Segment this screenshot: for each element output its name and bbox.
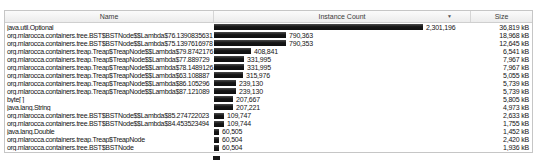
instance-count-value: 109,747 <box>227 112 251 119</box>
size-value: 5,805 kB <box>471 96 532 103</box>
size-value: 5,055 kB <box>471 72 532 79</box>
size-value: 7,967 kB <box>471 56 532 63</box>
clipped-row-bar-fragment <box>213 156 220 160</box>
size-value: 1,755 kB <box>471 120 532 127</box>
table-row[interactable]: org.mlarocca.containers.treap.Treap$Trea… <box>5 87 532 95</box>
size-value: 18,968 kB <box>471 32 532 39</box>
instance-count-value: 790,363 <box>289 32 313 39</box>
column-header-name[interactable]: Name <box>5 11 214 22</box>
instance-count-cell: 60,504 <box>214 136 471 143</box>
class-name: org.mlarocca.containers.tree.BST$BSTNode… <box>5 40 214 47</box>
instance-count-value: 207,221 <box>236 104 260 111</box>
size-value: 5,739 kB <box>471 80 532 87</box>
table-row[interactable]: org.mlarocca.containers.tree.BST$BSTNode… <box>5 31 532 39</box>
size-value: 2,420 kB <box>471 136 532 143</box>
table-row[interactable]: java.lang.Double 60,505 1,452 kB <box>5 128 532 136</box>
instance-count-bar <box>214 72 243 78</box>
class-name: org.mlarocca.containers.treap.Treap$Trea… <box>5 72 214 79</box>
instance-count-cell: 60,505 <box>214 128 471 135</box>
instance-count-value: 60,505 <box>222 128 242 135</box>
table-row[interactable]: org.mlarocca.containers.treap.Treap$Trea… <box>5 71 532 79</box>
instance-count-bar <box>214 24 423 30</box>
table-row[interactable]: java.util.Optional 2,301,196 36,819 kB <box>5 23 532 31</box>
class-name: org.mlarocca.containers.treap.Treap$Trea… <box>5 48 214 55</box>
instance-count-cell: 109,744 <box>214 120 471 127</box>
instance-count-value: 239,130 <box>239 80 263 87</box>
instance-count-bar <box>214 145 219 151</box>
instance-count-value: 331,995 <box>247 56 271 63</box>
column-header-instance-count-label: Instance Count <box>318 13 365 20</box>
size-value: 4,973 kB <box>471 104 532 111</box>
instance-count-value: 60,504 <box>222 144 242 151</box>
size-value: 12,645 kB <box>471 40 532 47</box>
table-row[interactable]: org.mlarocca.containers.treap.Treap$Trea… <box>5 63 532 71</box>
instance-count-bar <box>214 64 244 70</box>
instance-count-bar <box>214 32 286 38</box>
size-value: 2,633 kB <box>471 112 532 119</box>
instance-count-cell: 790,353 <box>214 40 471 47</box>
class-name: org.mlarocca.containers.treap.Treap$Trea… <box>5 56 214 63</box>
instance-count-bar <box>214 113 224 119</box>
instance-count-cell: 790,363 <box>214 32 471 39</box>
class-name: org.mlarocca.containers.tree.BST$BSTNode… <box>5 112 214 119</box>
table-row[interactable]: org.mlarocca.containers.tree.BST$BSTNode… <box>5 120 532 128</box>
class-name: org.mlarocca.containers.tree.BST$BSTNode… <box>5 32 214 39</box>
instance-count-value: 315,976 <box>246 72 270 79</box>
table-row[interactable]: org.mlarocca.containers.treap.Treap$Trea… <box>5 47 532 55</box>
column-header-size[interactable]: Size <box>471 11 532 22</box>
instance-count-bar <box>214 88 236 94</box>
size-value: 1,936 kB <box>471 144 532 151</box>
instance-count-cell: 207,667 <box>214 96 471 103</box>
table-header: Name Instance Count ▼ Size <box>5 11 532 23</box>
instance-count-cell: 239,130 <box>214 88 471 95</box>
class-name: org.mlarocca.containers.tree.BST$BSTNode… <box>5 120 214 127</box>
instance-count-value: 207,667 <box>236 96 260 103</box>
instance-count-value: 60,504 <box>222 136 242 143</box>
instance-count-cell: 239,130 <box>214 80 471 87</box>
table-row[interactable]: org.mlarocca.containers.treap.Treap$Trea… <box>5 79 532 87</box>
size-value: 36,819 kB <box>471 24 532 31</box>
class-name: org.mlarocca.containers.tree.BST$BSTNode <box>5 144 214 151</box>
sort-descending-icon: ▼ <box>447 11 452 22</box>
instance-count-value: 2,301,196 <box>426 24 455 31</box>
instance-count-bar <box>214 56 244 62</box>
size-value: 1,452 kB <box>471 128 532 135</box>
size-value: 5,739 kB <box>471 88 532 95</box>
size-value: 7,967 kB <box>471 64 532 71</box>
instance-count-cell: 60,504 <box>214 144 471 151</box>
table-row[interactable]: org.mlarocca.containers.tree.BST$BSTNode… <box>5 39 532 47</box>
class-name: java.lang.Double <box>5 128 214 135</box>
instance-count-bar <box>214 40 286 46</box>
class-name: java.lang.String <box>5 104 214 111</box>
instance-count-bar <box>214 121 224 127</box>
table-row[interactable]: org.mlarocca.containers.tree.BST$BSTNode… <box>5 144 532 152</box>
size-value: 6,541 kB <box>471 48 532 55</box>
table-row[interactable]: org.mlarocca.containers.treap.Treap$Trea… <box>5 136 532 144</box>
table-row[interactable]: org.mlarocca.containers.tree.BST$BSTNode… <box>5 112 532 120</box>
instance-count-bar <box>214 80 236 86</box>
instance-count-value: 331,995 <box>247 64 271 71</box>
instance-count-value: 239,130 <box>239 88 263 95</box>
instance-count-bar <box>214 137 219 143</box>
instance-count-bar <box>214 104 233 110</box>
instance-count-cell: 2,301,196 <box>214 24 471 31</box>
instance-count-cell: 331,995 <box>214 56 471 63</box>
class-name: org.mlarocca.containers.treap.Treap$Trea… <box>5 88 214 95</box>
instance-count-cell: 315,976 <box>214 72 471 79</box>
class-name: org.mlarocca.containers.treap.Treap$Trea… <box>5 80 214 87</box>
table-row[interactable]: java.lang.String 207,221 4,973 kB <box>5 103 532 111</box>
column-header-instance-count[interactable]: Instance Count ▼ <box>214 11 471 22</box>
class-name: org.mlarocca.containers.treap.Treap$Trea… <box>5 64 214 71</box>
class-name: byte[ ] <box>5 96 214 103</box>
table-row[interactable]: org.mlarocca.containers.treap.Treap$Trea… <box>5 55 532 63</box>
instance-count-bar <box>214 96 233 102</box>
instance-count-cell: 207,221 <box>214 104 471 111</box>
table-body: java.util.Optional 2,301,196 36,819 kB o… <box>5 23 532 152</box>
instance-count-bar <box>214 48 251 54</box>
class-name: org.mlarocca.containers.treap.Treap$Trea… <box>5 136 214 143</box>
table-row[interactable]: byte[ ] 207,667 5,805 kB <box>5 95 532 103</box>
instance-count-value: 408,841 <box>254 48 278 55</box>
instance-count-value: 109,744 <box>227 120 251 127</box>
instance-count-cell: 331,995 <box>214 64 471 71</box>
heap-histogram-table: Name Instance Count ▼ Size java.util.Opt… <box>4 10 533 153</box>
